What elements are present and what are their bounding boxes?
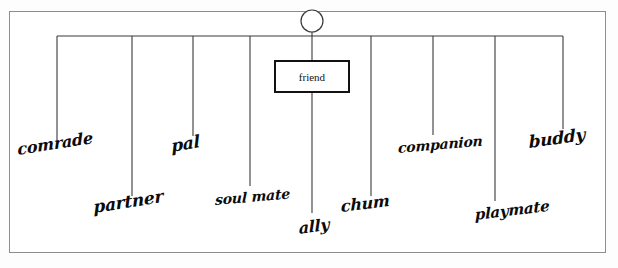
center-node-box[interactable]: friend (274, 60, 350, 93)
branch-label-ally: ally (298, 217, 329, 237)
center-node-group (301, 10, 323, 213)
center-circle-marker (301, 10, 323, 32)
center-node-label: friend (299, 71, 325, 83)
diagram-canvas: friend comradepartnerpalsoul mateallychu… (0, 0, 618, 268)
branch-label-pal: pal (171, 133, 201, 155)
